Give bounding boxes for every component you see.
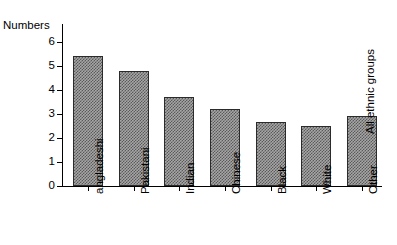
y-tick-mark	[57, 42, 62, 43]
x-axis-line	[62, 186, 382, 187]
y-tick-label: 5	[35, 59, 55, 72]
plot-area: 0123456	[62, 24, 382, 187]
clipped-title-remnant: · · · · · · · · · ·	[148, 0, 268, 3]
x-tick-mark	[88, 187, 89, 191]
x-axis-label-pakistani: Pakistani	[139, 147, 151, 194]
x-tick-mark	[271, 187, 272, 191]
y-tick-label: 6	[35, 35, 55, 48]
x-axis-label-other: Other	[367, 165, 379, 194]
x-axis-label-chinese: Chinese	[230, 152, 242, 194]
x-axis-label-angladeshi: angladeshi	[93, 138, 105, 194]
y-tick-mark	[57, 138, 62, 139]
bar-chart-figure: · · · · · · · · · · Numbers 0123456 angl…	[0, 0, 397, 245]
y-tick-label: 4	[35, 83, 55, 96]
x-axis-label-indian: Indian	[184, 163, 196, 194]
all-ethnic-groups-annotation: All ethnic groups	[364, 49, 376, 134]
y-tick-label: 0	[35, 179, 55, 192]
x-axis-label-white: White	[321, 165, 333, 194]
y-tick-label: 2	[35, 131, 55, 144]
y-tick-label: 1	[35, 155, 55, 168]
x-tick-mark	[179, 187, 180, 191]
x-tick-mark	[134, 187, 135, 191]
x-tick-mark	[316, 187, 317, 191]
y-tick-label: 3	[35, 107, 55, 120]
y-tick-mark	[57, 186, 62, 187]
y-axis-title: Numbers	[3, 19, 50, 32]
y-axis-line	[62, 24, 63, 187]
y-tick-mark	[57, 90, 62, 91]
x-axis-label-black: Black	[276, 166, 288, 194]
x-tick-mark	[225, 187, 226, 191]
y-tick-mark	[57, 162, 62, 163]
x-tick-mark	[362, 187, 363, 191]
y-tick-mark	[57, 114, 62, 115]
y-tick-mark	[57, 66, 62, 67]
